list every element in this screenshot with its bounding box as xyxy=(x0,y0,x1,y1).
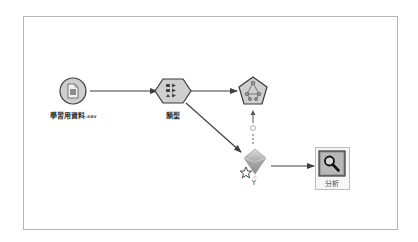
stream-canvas[interactable]: 學習用資料.sav 類型 Y xyxy=(0,0,418,242)
node-analysis[interactable]: 分析 xyxy=(316,148,350,190)
node-analysis-label: 分析 xyxy=(325,179,339,188)
node-type-label: 類型 xyxy=(165,111,180,120)
node-nugget-label: Y xyxy=(251,179,257,187)
document-icon xyxy=(68,84,78,98)
node-source-label: 學習用資料.sav xyxy=(50,111,97,120)
stream-frame xyxy=(24,17,398,230)
